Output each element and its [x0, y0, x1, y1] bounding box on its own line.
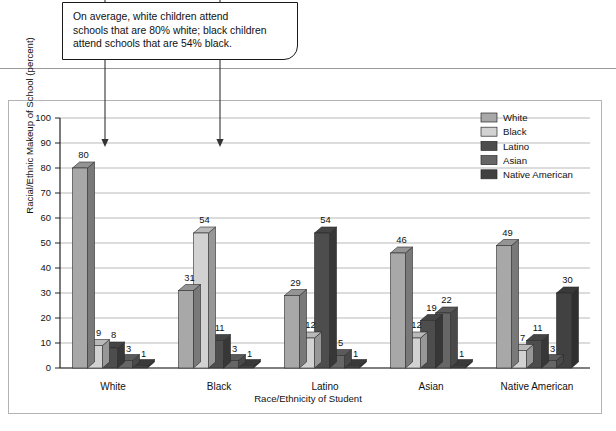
legend-label: White — [503, 112, 528, 123]
legend: WhiteBlackLatinoAsianNative American — [481, 112, 573, 180]
legend-label: Black — [503, 126, 527, 137]
x-category-label: Black — [207, 381, 232, 392]
bar-value-label: 1 — [459, 348, 464, 359]
y-tick-label: 60 — [41, 212, 51, 223]
y-tick-label: 20 — [41, 312, 51, 323]
bar — [497, 240, 519, 369]
bar-value-label: 22 — [441, 294, 451, 305]
bar-value-label: 12 — [411, 319, 421, 330]
bar-value-label: 1 — [353, 348, 358, 359]
bar-side — [194, 285, 201, 369]
y-tick-label: 80 — [41, 162, 51, 173]
bar-side — [572, 287, 579, 368]
legend-swatch — [481, 127, 497, 136]
bar-group: 15541229Latino — [285, 214, 367, 392]
y-tick-label: 100 — [35, 112, 51, 123]
y-tick-label: 0 — [46, 362, 51, 373]
legend-item[interactable]: White — [481, 112, 528, 123]
bar-value-label: 30 — [562, 274, 572, 285]
legend-label: Native American — [503, 169, 573, 180]
bar-value-label: 7 — [520, 332, 525, 343]
legend-item[interactable]: Native American — [481, 169, 573, 180]
legend-label: Latino — [503, 141, 529, 152]
bar-value-label: 3 — [550, 343, 555, 354]
callout-line-3: attend schools that are 54% black. — [73, 37, 288, 51]
legend-swatch — [481, 170, 497, 179]
bar-side — [512, 240, 519, 369]
bar-value-label: 5 — [338, 337, 343, 348]
bar-value-label: 80 — [78, 149, 88, 160]
bar-front — [391, 253, 406, 368]
bar-front — [285, 296, 300, 369]
bar-side — [436, 315, 443, 369]
bar-side — [451, 307, 458, 368]
legend-item[interactable]: Latino — [481, 141, 529, 152]
chart-page: On average, white children attend school… — [0, 0, 616, 431]
bar — [73, 162, 95, 368]
legend-swatch — [481, 156, 497, 165]
bar-front — [497, 246, 512, 369]
callout-line-1: On average, white children attend — [73, 10, 288, 24]
bar-side — [209, 227, 216, 368]
bar-value-label: 19 — [426, 302, 436, 313]
bar-side — [330, 227, 337, 368]
x-category-label: Latino — [311, 381, 339, 392]
bar-value-label: 29 — [290, 277, 300, 288]
bar-front — [73, 168, 88, 368]
bar-side — [406, 247, 413, 368]
y-tick-label: 10 — [41, 337, 51, 348]
bar-group: 13115431Black — [179, 214, 261, 392]
x-category-label: Asian — [418, 381, 443, 392]
bar — [391, 247, 413, 368]
bar-group: 122191246Asian — [391, 234, 473, 392]
bar-value-label: 11 — [533, 322, 543, 333]
bar — [179, 285, 201, 369]
callout-annotation: On average, white children attend school… — [62, 2, 298, 60]
bar-value-label: 54 — [320, 214, 330, 225]
bar-value-label: 46 — [396, 234, 406, 245]
legend-label: Asian — [503, 155, 527, 166]
bar-value-label: 1 — [141, 348, 146, 359]
bar-front — [179, 291, 194, 369]
bar-value-label: 49 — [502, 227, 512, 238]
bar-value-label: 12 — [305, 319, 315, 330]
bar-value-label: 3 — [232, 343, 237, 354]
bar-value-label: 31 — [184, 272, 194, 283]
legend-swatch — [481, 113, 497, 122]
y-tick-label: 30 — [41, 287, 51, 298]
bar-group: 138980White — [73, 149, 155, 392]
callout-line-2: schools that are 80% white; black childr… — [73, 24, 288, 38]
bar-value-label: 11 — [215, 322, 225, 333]
y-tick-label: 50 — [41, 237, 51, 248]
y-tick-label: 90 — [41, 137, 51, 148]
bar — [285, 290, 307, 369]
bar-side — [88, 162, 95, 368]
bar-side — [300, 290, 307, 369]
bar-value-label: 1 — [247, 348, 252, 359]
y-tick-label: 40 — [41, 262, 51, 273]
bar-value-label: 3 — [126, 343, 131, 354]
legend-swatch — [481, 141, 497, 150]
bar-value-label: 8 — [111, 329, 116, 340]
legend-item[interactable]: Asian — [481, 155, 527, 166]
bar-value-label: 54 — [199, 214, 209, 225]
bar-group: 30311749Native American — [497, 227, 579, 393]
bar-value-label: 9 — [96, 327, 101, 338]
x-category-label: Native American — [501, 381, 574, 392]
y-tick-label: 70 — [41, 187, 51, 198]
legend-item[interactable]: Black — [481, 126, 527, 137]
bar-chart: 0102030405060708090100138980White1311543… — [0, 0, 616, 431]
x-category-label: White — [100, 381, 126, 392]
